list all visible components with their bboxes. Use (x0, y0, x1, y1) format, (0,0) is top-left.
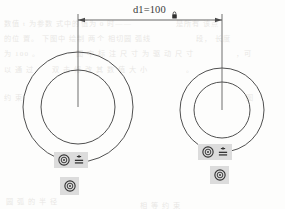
concentric-constraint-icon[interactable] (202, 146, 214, 158)
equal-constraint-icon[interactable] (73, 154, 85, 166)
constraint-badge[interactable] (210, 166, 229, 184)
cad-sketch-viewport[interactable]: 数值 t 为参数 式中的值为 0 时——是所有 该点的位 置。 下图中 绘制 两… (0, 0, 285, 209)
concentric-constraint-icon[interactable] (214, 169, 226, 181)
dimension-arrowhead (78, 18, 85, 23)
sketch-geometry-layer[interactable] (0, 0, 285, 209)
dimension-label-d1[interactable]: d1=100 (133, 4, 166, 15)
concentric-constraint-icon[interactable] (58, 154, 70, 166)
constraint-badge[interactable] (54, 152, 88, 168)
dimension-line-d1[interactable] (78, 18, 222, 23)
constraint-badge[interactable] (60, 177, 79, 195)
concentric-constraint-icon[interactable] (64, 180, 76, 192)
extension-lines-group (78, 14, 222, 110)
padlock-icon[interactable] (171, 5, 178, 13)
equal-constraint-icon[interactable] (217, 146, 229, 158)
dimension-arrowhead (215, 18, 222, 23)
constraint-badge[interactable] (198, 144, 232, 160)
